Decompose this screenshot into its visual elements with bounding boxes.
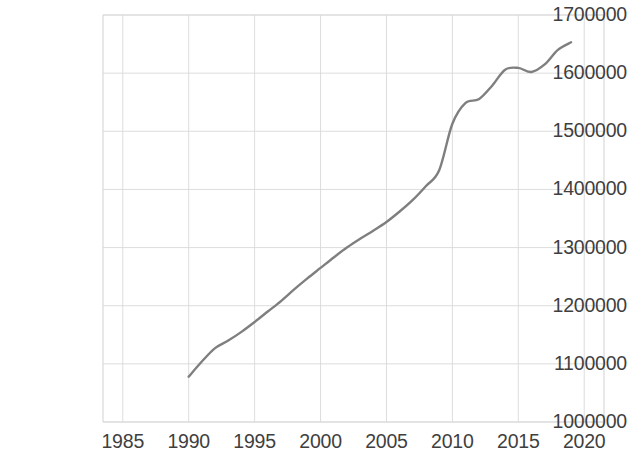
x-axis-tick-label: 2020 (544, 430, 624, 453)
line-chart: 1000000110000012000001300000140000015000… (0, 0, 627, 462)
x-axis-tick-labels: 19851990199520002005201020152020 (0, 0, 627, 462)
